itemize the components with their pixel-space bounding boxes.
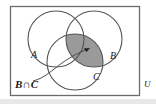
set-label-b: B	[110, 51, 116, 61]
universal-set-label: U	[144, 80, 151, 89]
set-label-a: A	[31, 50, 37, 60]
callout-label-b-intersect-c: B∩C	[15, 79, 38, 90]
set-label-c: C	[93, 72, 100, 82]
